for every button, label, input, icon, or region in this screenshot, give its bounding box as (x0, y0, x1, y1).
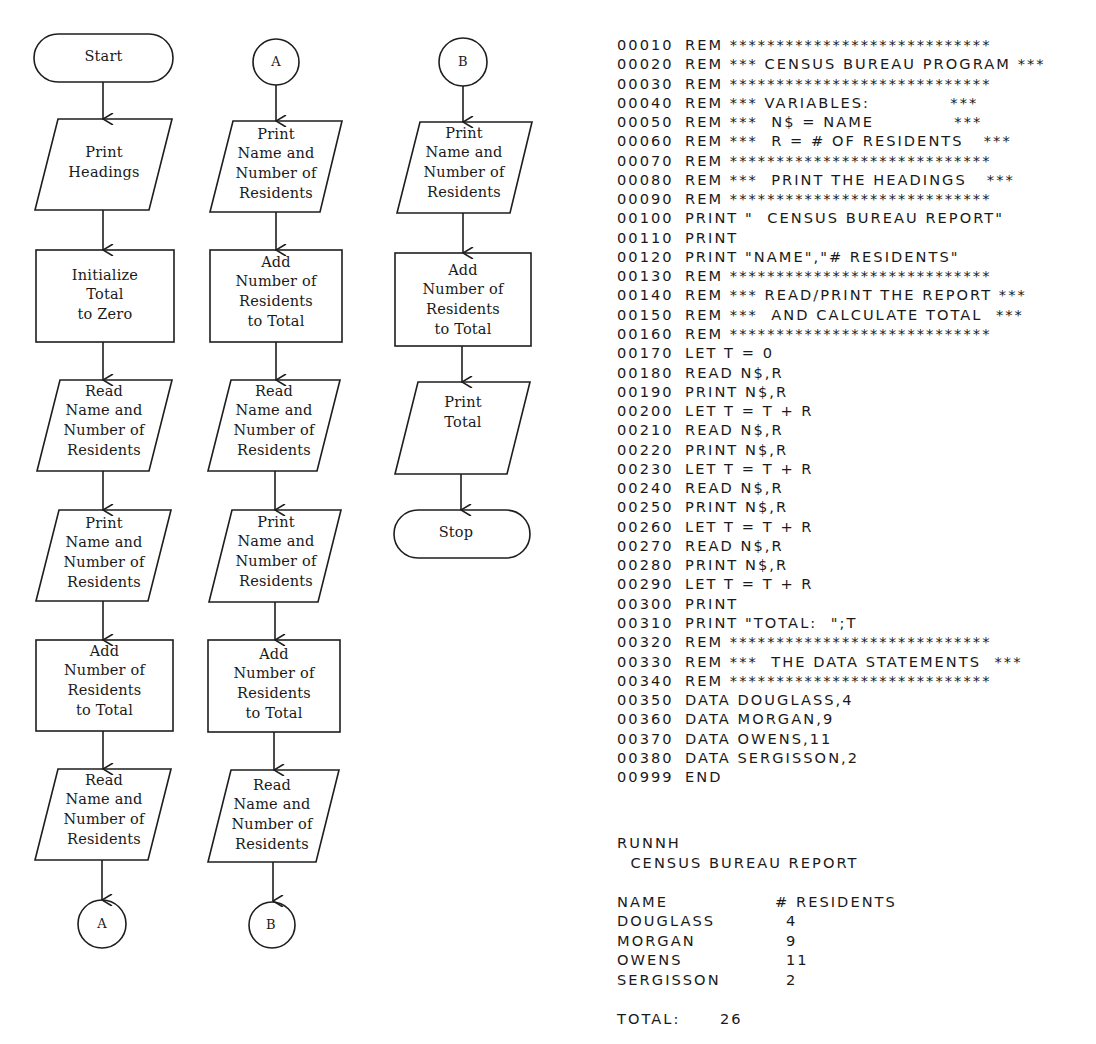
resident-name: DOUGLASS (617, 911, 775, 931)
total-value: 26 (720, 1009, 743, 1029)
code-line: 00150REM *** AND CALCULATE TOTAL *** (617, 305, 1087, 324)
line-number: 00310 (617, 613, 685, 632)
code-line: 00140REM *** READ/PRINT THE REPORT *** (617, 285, 1087, 304)
header-name: NAME (617, 892, 775, 912)
code-line: 00230LET T = T + R (617, 459, 1087, 478)
code-line: 00210READ N$,R (617, 420, 1087, 439)
statement: REM **************************** (685, 189, 992, 208)
statement: DATA OWENS,11 (685, 729, 832, 748)
code-line: 00080REM *** PRINT THE HEADINGS *** (617, 170, 1087, 189)
read-name-label: Read Name and Number of Residents (42, 765, 166, 855)
line-number: 00160 (617, 324, 685, 343)
resident-name: MORGAN (617, 931, 775, 951)
code-line: 00310PRINT "TOTAL: ";T (617, 613, 1087, 632)
statement: REM **************************** (685, 671, 992, 690)
add-residents-label: Add Number of Residents to Total (395, 255, 531, 345)
code-line: 00999END (617, 767, 1087, 786)
print-name-label: Print Name and Number of Residents (42, 508, 166, 598)
start-label: Start (34, 34, 173, 80)
read-name-label: Read Name and Number of Residents (214, 376, 334, 466)
code-line: 00030REM **************************** (617, 74, 1087, 93)
code-line: 00110PRINT (617, 228, 1087, 247)
statement: READ N$,R (685, 363, 784, 382)
statement: REM *** N$ = NAME *** (685, 112, 982, 131)
code-line: 00100PRINT " CENSUS BUREAU REPORT" (617, 208, 1087, 227)
code-line: 00060REM *** R = # OF RESIDENTS *** (617, 131, 1087, 150)
report-title: CENSUS BUREAU REPORT (617, 853, 1087, 873)
statement: REM **************************** (685, 151, 992, 170)
line-number: 00010 (617, 35, 685, 54)
code-line: 00090REM **************************** (617, 189, 1087, 208)
statement: REM **************************** (685, 35, 992, 54)
code-line: 00260LET T = T + R (617, 517, 1087, 536)
statement: DATA DOUGLASS,4 (685, 690, 854, 709)
print-name-label: Print Name and Number of Residents (403, 118, 525, 208)
code-line: 00130REM **************************** (617, 266, 1087, 285)
line-number: 00999 (617, 767, 685, 786)
line-number: 00330 (617, 652, 685, 671)
connector-a-label: A (253, 39, 299, 85)
code-line: 00330REM *** THE DATA STATEMENTS *** (617, 652, 1087, 671)
line-number: 00070 (617, 151, 685, 170)
line-number: 00190 (617, 382, 685, 401)
resident-count: 9 (775, 931, 797, 951)
connector-b-label: B (248, 902, 294, 948)
blank-line (617, 872, 1087, 892)
statement: DATA SERGISSON,2 (685, 748, 859, 767)
code-line: 00180READ N$,R (617, 363, 1087, 382)
print-total-label: Print Total (402, 378, 524, 448)
statement: REM *** READ/PRINT THE REPORT *** (685, 285, 1027, 304)
line-number: 00030 (617, 74, 685, 93)
statement: READ N$,R (685, 420, 784, 439)
code-line: 00040REM *** VARIABLES: *** (617, 93, 1087, 112)
code-line: 00300PRINT (617, 594, 1087, 613)
statement: REM **************************** (685, 632, 992, 651)
line-number: 00220 (617, 440, 685, 459)
statement: READ N$,R (685, 478, 784, 497)
line-number: 00130 (617, 266, 685, 285)
statement: REM *** AND CALCULATE TOTAL *** (685, 305, 1024, 324)
resident-count: 11 (775, 950, 809, 970)
run-command: RUNNH (617, 833, 1087, 853)
code-line: 00010REM **************************** (617, 35, 1087, 54)
line-number: 00180 (617, 363, 685, 382)
report-row: DOUGLASS 4 (617, 911, 1087, 931)
code-line: 00290LET T = T + R (617, 574, 1087, 593)
line-number: 00350 (617, 690, 685, 709)
statement: REM *** R = # OF RESIDENTS *** (685, 131, 1012, 150)
blank-line (617, 989, 1087, 1009)
line-number: 00230 (617, 459, 685, 478)
statement: PRINT N$,R (685, 440, 788, 459)
print-headings-label: Print Headings (44, 119, 164, 207)
code-line: 00050REM *** N$ = NAME *** (617, 112, 1087, 131)
line-number: 00290 (617, 574, 685, 593)
line-number: 00120 (617, 247, 685, 266)
add-residents-label: Add Number of Residents to Total (208, 639, 340, 729)
statement: READ N$,R (685, 536, 784, 555)
code-line: 00280PRINT N$,R (617, 555, 1087, 574)
code-line: 00190PRINT N$,R (617, 382, 1087, 401)
resident-count: 4 (775, 911, 797, 931)
resident-name: OWENS (617, 950, 775, 970)
code-line: 00370DATA OWENS,11 (617, 729, 1087, 748)
initialize-total-label: Initialize Total to Zero (36, 250, 174, 340)
line-number: 00040 (617, 93, 685, 112)
code-line: 00380DATA SERGISSON,2 (617, 748, 1087, 767)
stop-label: Stop (388, 510, 524, 556)
line-number: 00140 (617, 285, 685, 304)
line-number: 00260 (617, 517, 685, 536)
line-number: 00060 (617, 131, 685, 150)
statement: REM *** VARIABLES: *** (685, 93, 978, 112)
statement: REM **************************** (685, 266, 992, 285)
statement: LET T = T + R (685, 517, 814, 536)
statement: LET T = T + R (685, 401, 814, 420)
print-name-label: Print Name and Number of Residents (216, 119, 336, 209)
line-number: 00360 (617, 709, 685, 728)
line-number: 00210 (617, 420, 685, 439)
line-number: 00280 (617, 555, 685, 574)
statement: PRINT " CENSUS BUREAU REPORT" (685, 208, 1004, 227)
report-row: SERGISSON 2 (617, 970, 1087, 990)
code-line: 00340REM **************************** (617, 671, 1087, 690)
line-number: 00170 (617, 343, 685, 362)
resident-count: 2 (775, 970, 797, 990)
